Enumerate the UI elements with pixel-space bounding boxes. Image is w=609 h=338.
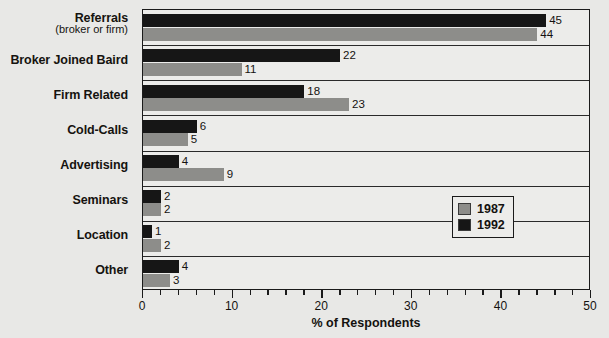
x-axis: % of Respondents 01020304050 bbox=[142, 290, 590, 338]
grid-line bbox=[143, 151, 589, 152]
bar-value-label: 45 bbox=[546, 14, 562, 27]
legend-entry-1987: 1987 bbox=[458, 201, 505, 217]
bar-value-label: 6 bbox=[197, 120, 206, 133]
bar-value-label: 9 bbox=[224, 168, 233, 181]
bar-value-label: 2 bbox=[161, 203, 170, 216]
bar-1987-seminars bbox=[143, 203, 161, 216]
bar-value-label: 1 bbox=[152, 225, 161, 238]
bar-value-label: 23 bbox=[349, 98, 365, 111]
bar-value-label: 4 bbox=[179, 260, 188, 273]
bar-1992-seminars bbox=[143, 190, 161, 203]
x-tick-minor bbox=[375, 290, 376, 295]
x-tick-minor bbox=[357, 290, 358, 295]
x-tick-label: 30 bbox=[404, 299, 417, 313]
x-tick-major bbox=[232, 290, 233, 298]
bar-value-label: 3 bbox=[170, 274, 179, 287]
category-label-text: Other bbox=[95, 264, 128, 277]
x-tick-minor bbox=[572, 290, 573, 295]
legend-label-1987: 1987 bbox=[477, 202, 505, 216]
bar-value-label: 11 bbox=[242, 63, 257, 76]
legend-label-1992: 1992 bbox=[477, 218, 505, 232]
bar-value-label: 2 bbox=[161, 190, 170, 203]
category-label-firm-related: Firm Related bbox=[53, 89, 128, 102]
category-label-text: Location bbox=[77, 229, 128, 242]
bar-1992-broker-joined-baird bbox=[143, 49, 340, 62]
x-tick-minor bbox=[196, 290, 197, 295]
category-label-column: Referrals(broker or firm)Broker Joined B… bbox=[0, 9, 134, 290]
bar-value-label: 5 bbox=[188, 133, 197, 146]
x-tick-label: 40 bbox=[494, 299, 507, 313]
bar-value-label: 44 bbox=[537, 28, 553, 41]
x-tick-minor bbox=[482, 290, 483, 295]
category-label-text: Seminars bbox=[73, 194, 128, 207]
category-label-text: Firm Related bbox=[53, 89, 128, 102]
x-tick-label: 10 bbox=[225, 299, 238, 313]
bar-1992-other bbox=[143, 260, 179, 273]
x-axis-title: % of Respondents bbox=[142, 316, 590, 330]
x-tick-minor bbox=[339, 290, 340, 295]
x-tick-minor bbox=[160, 290, 161, 295]
category-label-broker-joined-baird: Broker Joined Baird bbox=[10, 54, 128, 67]
x-tick-minor bbox=[303, 290, 304, 295]
legend-swatch-1992-icon bbox=[458, 219, 471, 231]
x-tick-minor bbox=[250, 290, 251, 295]
x-tick-minor bbox=[393, 290, 394, 295]
bar-1992-referrals bbox=[143, 14, 546, 27]
x-tick-major bbox=[142, 290, 143, 298]
category-label-advertising: Advertising bbox=[60, 159, 128, 172]
x-tick-major bbox=[590, 290, 591, 298]
bar-1987-advertising bbox=[143, 168, 224, 181]
category-label-seminars: Seminars bbox=[73, 194, 128, 207]
x-tick-minor bbox=[554, 290, 555, 295]
bar-1987-referrals bbox=[143, 28, 537, 41]
bar-chart: Referrals(broker or firm)Broker Joined B… bbox=[0, 0, 609, 338]
x-tick-minor bbox=[429, 290, 430, 295]
x-tick-minor bbox=[518, 290, 519, 295]
x-tick-minor bbox=[447, 290, 448, 295]
category-label-text: Cold-Calls bbox=[67, 124, 128, 137]
x-tick-minor bbox=[214, 290, 215, 295]
x-tick-label: 20 bbox=[315, 299, 328, 313]
x-tick-minor bbox=[267, 290, 268, 295]
category-label-text: Advertising bbox=[60, 159, 128, 172]
category-label-location: Location bbox=[77, 229, 128, 242]
category-label-other: Other bbox=[95, 264, 128, 277]
bar-1987-location bbox=[143, 239, 161, 252]
x-tick-label: 50 bbox=[583, 299, 596, 313]
bar-1992-firm-related bbox=[143, 85, 304, 98]
category-label-cold-calls: Cold-Calls bbox=[67, 124, 128, 137]
chart-legend: 1987 1992 bbox=[452, 196, 514, 238]
category-label-referrals: Referrals(broker or firm) bbox=[55, 12, 128, 36]
grid-line bbox=[143, 256, 589, 257]
category-label-text: Broker Joined Baird bbox=[10, 54, 128, 67]
bar-value-label: 18 bbox=[304, 85, 320, 98]
legend-swatch-1987-icon bbox=[458, 203, 471, 215]
x-tick-major bbox=[321, 290, 322, 298]
bar-1992-cold-calls bbox=[143, 120, 197, 133]
bar-value-label: 22 bbox=[340, 49, 356, 62]
plot-area: 4544221118236549221243 bbox=[142, 9, 590, 290]
x-tick-label: 0 bbox=[139, 299, 146, 313]
grid-line bbox=[143, 115, 589, 116]
bar-1992-location bbox=[143, 225, 152, 238]
bar-value-label: 4 bbox=[179, 155, 188, 168]
bar-1987-other bbox=[143, 274, 170, 287]
category-sublabel-text: (broker or firm) bbox=[55, 24, 128, 35]
x-tick-minor bbox=[178, 290, 179, 295]
x-tick-minor bbox=[536, 290, 537, 295]
grid-line bbox=[143, 45, 589, 46]
bar-1987-broker-joined-baird bbox=[143, 63, 242, 76]
grid-line bbox=[143, 186, 589, 187]
bar-value-label: 2 bbox=[161, 239, 170, 252]
legend-entry-1992: 1992 bbox=[458, 217, 505, 233]
bar-1987-firm-related bbox=[143, 98, 349, 111]
grid-line bbox=[143, 221, 589, 222]
x-tick-minor bbox=[285, 290, 286, 295]
bar-1987-cold-calls bbox=[143, 133, 188, 146]
x-tick-minor bbox=[465, 290, 466, 295]
x-tick-major bbox=[411, 290, 412, 298]
bar-1992-advertising bbox=[143, 155, 179, 168]
grid-line bbox=[143, 80, 589, 81]
x-tick-major bbox=[500, 290, 501, 298]
